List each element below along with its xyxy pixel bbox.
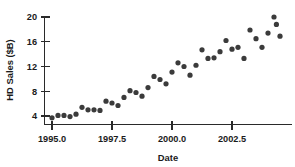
data-point [67,114,72,119]
data-point [259,45,264,50]
x-axis-title: Date [158,152,178,163]
data-point [73,112,78,117]
data-point [133,90,138,95]
y-tick-label: 4 [32,111,38,121]
y-tick-label: 8 [32,87,37,97]
y-axis-title: HD Sales ($B) [4,39,15,100]
x-tick-label: 1997.5 [98,134,126,144]
data-point [97,108,102,113]
data-point [163,81,168,86]
data-point [253,36,258,41]
data-point [55,113,60,118]
data-point [91,107,96,112]
chart-canvas: 48121620 HD Sales ($B) 1995.01997.52000.… [0,0,295,167]
data-point [235,45,240,50]
data-point [271,14,276,19]
data-point [61,113,66,118]
data-point [79,105,84,110]
data-point [157,77,162,82]
data-point [265,30,270,35]
data-point [193,63,198,68]
data-point [229,47,234,52]
y-tick-label: 20 [27,12,37,22]
data-point [151,74,156,79]
data-point [175,60,180,65]
data-point [139,94,144,99]
data-point [217,49,222,54]
y-axis-tick-labels: 48121620 [27,12,38,121]
y-tick-label: 12 [27,62,37,72]
x-tick-label: 2000.0 [158,134,186,144]
data-point [241,56,246,61]
data-point [247,27,252,32]
x-axis-tick-labels: 1995.01997.52000.02002.5 [38,134,246,144]
data-point [85,107,90,112]
x-tick-label: 2002.5 [218,134,246,144]
data-point [109,100,114,105]
x-tick-label: 1995.0 [38,134,66,144]
data-point [181,64,186,69]
data-point [223,38,228,43]
data-point [211,55,216,60]
data-point [205,56,210,61]
x-axis: 1995.01997.52000.02002.5 Date [38,121,292,164]
data-point [277,34,282,39]
y-axis: 48121620 HD Sales ($B) [4,12,50,124]
data-point [187,73,192,78]
data-points-layer [49,14,282,120]
data-point [49,115,54,120]
data-point [274,22,279,27]
scatter-chart: 48121620 HD Sales ($B) 1995.01997.52000.… [0,0,295,167]
data-point [121,95,126,100]
data-point [199,47,204,52]
data-point [115,103,120,108]
data-point [103,99,108,104]
data-point [127,88,132,93]
data-point [169,69,174,74]
data-point [145,85,150,90]
y-tick-label: 16 [27,37,37,47]
